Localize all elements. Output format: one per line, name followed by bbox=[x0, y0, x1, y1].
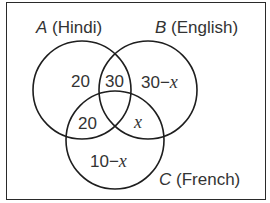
set-a-letter: A bbox=[36, 18, 47, 37]
region-a-and-c: 20 bbox=[78, 115, 97, 132]
region-a-and-b: 30 bbox=[105, 73, 124, 90]
c-only-operator: − bbox=[109, 152, 119, 171]
region-a-only: 20 bbox=[71, 73, 90, 90]
set-c-name: (French) bbox=[176, 170, 240, 189]
set-b-name: (English) bbox=[171, 18, 238, 37]
b-only-variable: x bbox=[170, 72, 178, 92]
label-set-c: C (French) bbox=[159, 171, 240, 188]
circle-c-french bbox=[66, 91, 164, 189]
b-only-number: 30 bbox=[141, 73, 160, 92]
label-set-b: B (English) bbox=[155, 19, 238, 36]
c-only-variable: x bbox=[119, 151, 127, 171]
region-c-only: 10−x bbox=[90, 152, 127, 170]
set-c-letter: C bbox=[159, 170, 171, 189]
region-b-and-c: x bbox=[134, 113, 142, 131]
region-b-only: 30−x bbox=[141, 73, 178, 91]
set-b-letter: B bbox=[155, 18, 166, 37]
label-set-a: A (Hindi) bbox=[36, 19, 102, 36]
b-only-operator: − bbox=[160, 73, 170, 92]
c-only-number: 10 bbox=[90, 152, 109, 171]
set-a-name: (Hindi) bbox=[52, 18, 102, 37]
